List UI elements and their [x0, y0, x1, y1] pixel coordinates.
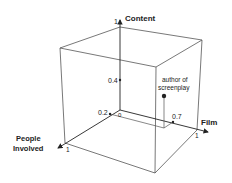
people-tick-label: 0.2: [98, 109, 108, 116]
cube-diagram: 1 Content 0.4 0.2 0 0.7 author of screen…: [0, 0, 232, 183]
people-axis: [58, 110, 120, 148]
point-label-line2: screenplay: [158, 84, 190, 92]
point-label-line1: author of: [162, 76, 188, 83]
content-tick-label: 0.4: [108, 77, 118, 84]
content-max-tick: 1: [114, 18, 118, 25]
people-axis-label-line2: Involved: [13, 144, 44, 153]
film-axis-label: Film: [201, 118, 217, 127]
film-max-tick: 1: [195, 132, 199, 139]
cube-frame: [60, 27, 202, 173]
film-tick-label: 0.7: [172, 113, 182, 120]
people-max-tick: 1: [66, 146, 70, 153]
data-point-author-of-screenplay: [162, 94, 166, 98]
content-axis-label: Content: [125, 14, 156, 23]
people-axis-label-line1: People: [16, 134, 41, 143]
